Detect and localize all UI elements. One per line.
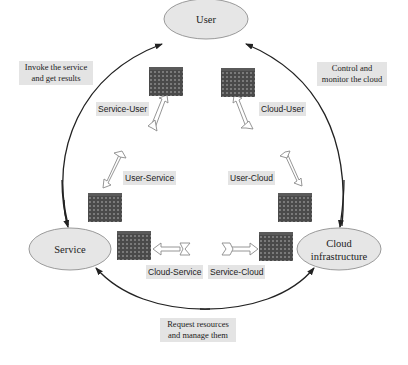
hollow-arrow-service-user: [148, 95, 168, 131]
cloud-infrastructure-node: Cloud infrastructure: [297, 236, 381, 264]
edge-label-line: monitor the cloud: [320, 74, 384, 85]
interface-label-service-cloud: Service-Cloud: [208, 265, 265, 279]
service-node: Service: [29, 236, 111, 262]
edge-label-line: Control and: [320, 63, 384, 74]
firewall-cloud-user: [221, 68, 255, 97]
interface-label-user-service: User-Service: [123, 171, 176, 185]
edge-label-line: Request resources: [163, 319, 233, 330]
hollow-arrow-user-cloud: [280, 151, 302, 186]
edge-label-invoke-service: Invoke the service and get results: [19, 61, 93, 85]
hollow-arrow-service-cloud: [222, 243, 258, 255]
user-node: User: [164, 6, 248, 32]
firewall-cloud-service: [117, 231, 151, 260]
firewall-service-cloud: [259, 232, 293, 261]
hollow-arrow-cloud-service: [153, 243, 190, 255]
interface-label-cloud-service: Cloud-Service: [146, 265, 203, 279]
interface-label-service-user: Service-User: [96, 102, 149, 116]
interface-label-cloud-user: Cloud-User: [259, 102, 306, 116]
edge-label-request-resources: Request resources and manage them: [160, 318, 236, 342]
edge-label-line: and get results: [22, 73, 90, 84]
edge-label-control-cloud: Control and monitor the cloud: [317, 62, 387, 86]
cloud-node-label-line2: infrastructure: [311, 250, 368, 263]
firewall-user-cloud: [278, 193, 312, 222]
diagram-edges: [0, 0, 408, 365]
interface-label-user-cloud: User-Cloud: [228, 171, 275, 185]
hollow-arrow-cloud-user: [233, 95, 253, 129]
cloud-interaction-diagram: User Service Cloud infrastructure Invoke…: [0, 0, 408, 365]
user-node-label: User: [196, 13, 216, 26]
edge-label-line: and manage them: [163, 330, 233, 341]
edge-label-line: Invoke the service: [22, 62, 90, 73]
firewall-user-service: [88, 193, 122, 222]
firewall-service-user: [149, 67, 183, 96]
cloud-node-label-line1: Cloud: [326, 237, 352, 250]
service-node-label: Service: [54, 243, 86, 256]
